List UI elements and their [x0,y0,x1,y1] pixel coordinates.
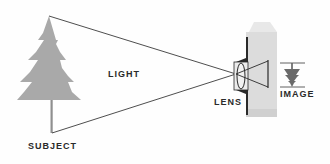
subject-label: SUBJECT [28,141,77,151]
tree-icon [17,16,81,133]
camera-optics-diagram: SUBJECT LIGHT LENS IMAGE [0,0,330,164]
light-label: LIGHT [108,69,140,79]
diagram-canvas [0,0,330,164]
lens-label: LENS [214,97,242,107]
inverted-tree-icon [284,63,300,87]
image-label: IMAGE [280,89,315,99]
light-rays [49,16,236,133]
